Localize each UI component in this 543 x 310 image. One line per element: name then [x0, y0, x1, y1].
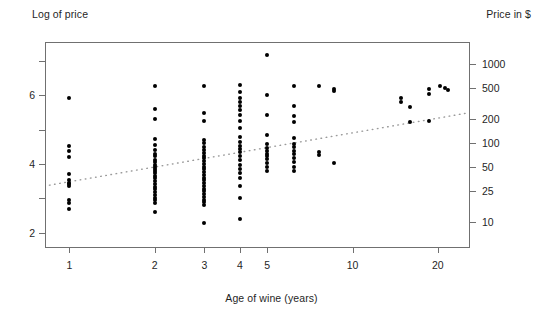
- x-axis-tick: [438, 248, 439, 253]
- x-axis-tick: [69, 248, 70, 253]
- y-axis-tick-label-right: 25: [482, 185, 494, 197]
- y-axis-tick-label-right: 200: [482, 113, 500, 125]
- y-axis-tick-right: [470, 143, 476, 144]
- y-axis-tick-right: [470, 64, 476, 65]
- y-axis-tick-label-left: 4: [17, 158, 35, 170]
- y-axis-tick-label-left: 2: [17, 227, 35, 239]
- y-axis-tick-left: [39, 164, 45, 165]
- y-axis-tick-label-right: 10: [482, 216, 494, 228]
- x-axis-tick: [267, 248, 268, 253]
- y-axis-tick-label-right: 100: [482, 137, 500, 149]
- x-axis-tick-label: 1: [66, 259, 72, 271]
- y-axis-tick-left: [39, 198, 45, 199]
- y-axis-tick-left: [39, 130, 45, 131]
- x-axis-tick: [240, 248, 241, 253]
- plot-area-frame: [45, 42, 470, 248]
- x-axis-tick: [204, 248, 205, 253]
- y-axis-tick-label-right: 500: [482, 82, 500, 94]
- x-axis-tick-label: 4: [237, 259, 243, 271]
- x-axis-tick-label: 10: [347, 259, 359, 271]
- y-axis-tick-right: [470, 222, 476, 223]
- x-axis-tick: [353, 248, 354, 253]
- x-axis-tick-label: 2: [152, 259, 158, 271]
- y-axis-tick-label-right: 50: [482, 161, 494, 173]
- y-axis-tick-label-right: 1000: [482, 58, 505, 70]
- wine-price-scatter-figure: Log of price Price in $ Age of wine (yea…: [0, 0, 543, 310]
- x-axis-title: Age of wine (years): [225, 292, 317, 304]
- y-axis-tick-label-left: 6: [17, 89, 35, 101]
- y-axis-tick-left: [39, 95, 45, 96]
- y-axis-tick-left: [39, 61, 45, 62]
- x-axis-tick-label: 5: [264, 259, 270, 271]
- x-axis-tick: [155, 248, 156, 253]
- x-axis-tick-label: 20: [432, 259, 444, 271]
- x-axis-tick-label: 3: [202, 259, 208, 271]
- y-axis-tick-left: [39, 233, 45, 234]
- y-axis-title-right: Price in $: [486, 8, 531, 20]
- y-axis-tick-right: [470, 191, 476, 192]
- y-axis-tick-right: [470, 167, 476, 168]
- y-axis-tick-right: [470, 119, 476, 120]
- y-axis-title-left: Log of price: [32, 8, 88, 20]
- y-axis-tick-right: [470, 88, 476, 89]
